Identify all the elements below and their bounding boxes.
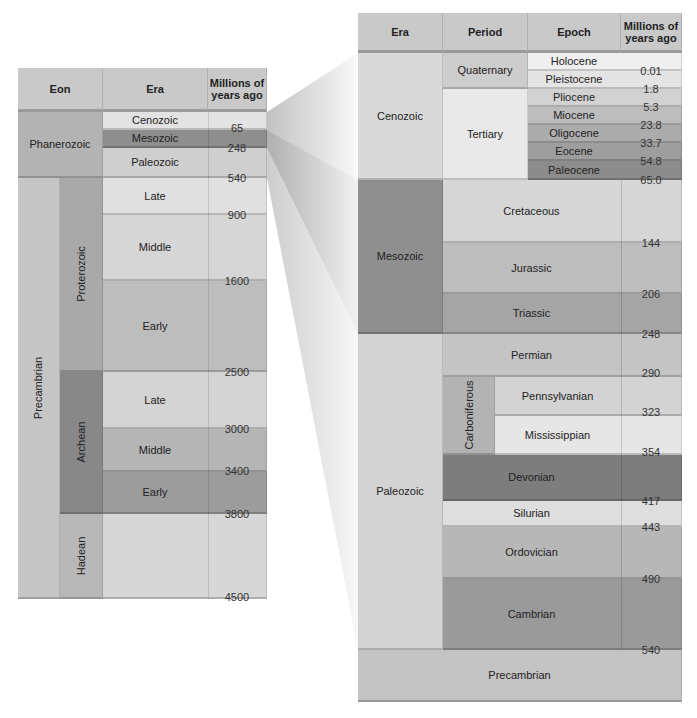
period-cambrian: Cambrian	[443, 579, 682, 650]
boundary-144: 144	[621, 237, 681, 249]
boundary-248: 248	[207, 142, 267, 154]
boundary-65.0: 65.0	[621, 174, 681, 186]
header-era: Era	[358, 13, 443, 53]
era-archean-late: Late	[103, 372, 267, 429]
eon-phanerozoic: Phanerozoic	[18, 112, 103, 178]
period-carboniferous: Carboniferous	[443, 377, 495, 455]
header-eon: Eon	[18, 68, 103, 112]
period-quaternary: Quaternary	[443, 53, 528, 89]
boundary-354: 354	[621, 446, 681, 458]
boundary-23.8: 23.8	[621, 119, 681, 131]
boundary-1.8: 1.8	[621, 83, 681, 95]
header-epoch: Epoch	[528, 13, 621, 53]
boundary-5.3: 5.3	[621, 101, 681, 113]
boundary-290: 290	[621, 367, 681, 379]
boundary-2500: 2500	[207, 366, 267, 378]
subeon-hadean: Hadean	[60, 514, 103, 599]
boundary-0.01: 0.01	[621, 65, 681, 77]
boundary-248: 248	[621, 328, 681, 340]
era-proterozoic-early: Early	[103, 281, 267, 372]
boundary-443: 443	[621, 521, 681, 533]
boundary-540: 540	[621, 644, 681, 656]
boundary-3000: 3000	[207, 423, 267, 435]
boundary-33.7: 33.7	[621, 137, 681, 149]
boundary-3400: 3400	[207, 465, 267, 477]
boundary-4500: 4500	[207, 591, 267, 603]
eon-precambrian: Precambrian	[18, 178, 60, 599]
era-cenozoic: Cenozoic	[358, 53, 443, 180]
period-cretaceous: Cretaceous	[443, 180, 682, 243]
column-divider	[208, 112, 209, 599]
subeon-proterozoic: Proterozoic	[60, 178, 103, 372]
header-mya: Millions of years ago	[208, 68, 267, 112]
boundary-3800: 3800	[207, 508, 267, 520]
period-ordovician: Ordovician	[443, 527, 682, 579]
boundary-65: 65	[207, 122, 267, 134]
boundary-490: 490	[621, 573, 681, 585]
subeon-archean: Archean	[60, 372, 103, 514]
era-hadean	[103, 514, 267, 599]
header-period: Period	[443, 13, 528, 53]
period-jurassic: Jurassic	[443, 243, 682, 294]
boundary-540: 540	[207, 172, 267, 184]
boundary-54.8: 54.8	[621, 155, 681, 167]
header-era: Era	[103, 68, 208, 112]
era-proterozoic-middle: Middle	[103, 215, 267, 281]
boundary-900: 900	[207, 209, 267, 221]
era-mesozoic: Mesozoic	[358, 180, 443, 334]
period-tertiary: Tertiary	[443, 89, 528, 180]
boundary-206: 206	[621, 288, 681, 300]
header-mya: Millions of years ago	[621, 13, 682, 53]
boundary-323: 323	[621, 406, 681, 418]
era-paleozoic: Paleozoic	[358, 334, 443, 650]
boundary-417: 417	[621, 495, 681, 507]
boundary-1600: 1600	[207, 275, 267, 287]
footer-precambrian: Precambrian	[358, 650, 682, 702]
